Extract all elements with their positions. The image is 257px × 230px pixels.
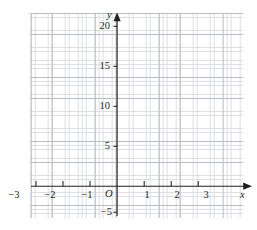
y-axis-arrowhead [114, 12, 121, 21]
axes-layer [0, 0, 257, 230]
x-tick-label-3: 3 [203, 190, 208, 201]
y-tick-label-minus-5: −5 [101, 207, 112, 218]
x-tick-label-minus-2: −2 [44, 190, 55, 201]
y-tick-label-10: 10 [100, 101, 111, 112]
y-tick-label-15: 15 [100, 61, 111, 72]
x-tick-label-2: 2 [174, 190, 179, 201]
y-axis-label: y [107, 10, 112, 21]
y-tick-label-5: 5 [105, 141, 110, 152]
x-axis-label: x [240, 190, 245, 201]
y-tick-label-20: 20 [100, 21, 111, 32]
x-tick-label-minus-1: −1 [81, 190, 92, 201]
x-tick-label-1: 1 [144, 190, 149, 201]
graph-figure: 20 15 10 5 −5 −3 −2 −1 1 2 3 O y x [0, 0, 257, 230]
origin-label: O [105, 189, 113, 200]
x-tick-label-minus-3: −3 [8, 190, 19, 201]
